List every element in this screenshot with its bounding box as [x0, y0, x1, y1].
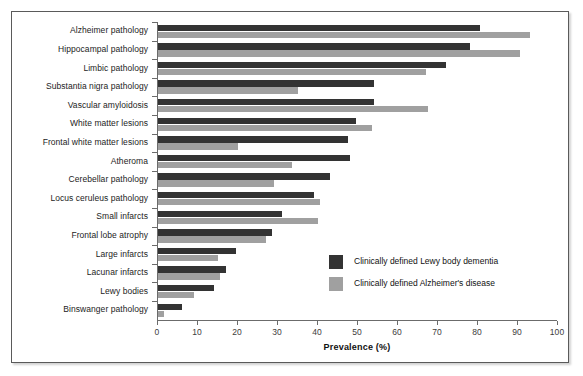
- x-tick-30: [277, 321, 278, 325]
- x-tick-40: [317, 321, 318, 325]
- y-tick-10: [152, 208, 157, 209]
- bar-lewy-body-dementia: [158, 43, 470, 49]
- category-label: Limbic pathology: [0, 63, 148, 73]
- bar-lewy-body-dementia: [158, 118, 356, 124]
- bar-alzheimers-disease: [158, 162, 292, 168]
- bar-alzheimers-disease: [158, 87, 298, 93]
- category-label: Cerebellar pathology: [0, 174, 148, 184]
- y-tick-11: [152, 227, 157, 228]
- bar-alzheimers-disease: [158, 32, 530, 38]
- bar-alzheimers-disease: [158, 311, 164, 317]
- bar-lewy-body-dementia: [158, 192, 314, 198]
- bar-alzheimers-disease: [158, 69, 426, 75]
- y-tick-0: [152, 22, 157, 23]
- y-tick-4: [152, 96, 157, 97]
- y-tick-15: [152, 301, 157, 302]
- x-tick-label-60: 60: [377, 327, 417, 337]
- bar-alzheimers-disease: [158, 180, 274, 186]
- category-label: Locus ceruleus pathology: [0, 193, 148, 203]
- category-label: Vascular amyloidosis: [0, 100, 148, 110]
- bar-alzheimers-disease: [158, 199, 320, 205]
- category-label: Frontal white matter lesions: [0, 137, 148, 147]
- bar-alzheimers-disease: [158, 255, 218, 261]
- y-tick-8: [152, 171, 157, 172]
- y-tick-3: [152, 78, 157, 79]
- bar-lewy-body-dementia: [158, 211, 282, 217]
- y-tick-7: [152, 152, 157, 153]
- legend-label-dark: Clinically defined Lewy body dementia: [354, 256, 498, 266]
- bar-lewy-body-dementia: [158, 62, 446, 68]
- y-tick-9: [152, 189, 157, 190]
- y-tick-5: [152, 115, 157, 116]
- bar-lewy-body-dementia: [158, 155, 350, 161]
- x-tick-label-50: 50: [337, 327, 377, 337]
- bar-alzheimers-disease: [158, 273, 220, 279]
- bar-lewy-body-dementia: [158, 136, 348, 142]
- category-label: Small infarcts: [0, 211, 148, 221]
- x-tick-label-20: 20: [217, 327, 257, 337]
- bar-alzheimers-disease: [158, 218, 318, 224]
- category-label: Hippocampal pathology: [0, 44, 148, 54]
- bar-alzheimers-disease: [158, 236, 266, 242]
- bar-lewy-body-dementia: [158, 25, 480, 31]
- bar-lewy-body-dementia: [158, 173, 330, 179]
- category-label: Atheroma: [0, 156, 148, 166]
- x-axis-title: Prevalence (%): [157, 342, 557, 352]
- x-tick-label-100: 100: [537, 327, 577, 337]
- figure-container: 0102030405060708090100 Alzheimer patholo…: [0, 0, 583, 376]
- y-tick-1: [152, 41, 157, 42]
- legend-swatch-icon-light: [329, 277, 343, 291]
- bar-lewy-body-dementia: [158, 229, 272, 235]
- x-tick-label-10: 10: [177, 327, 217, 337]
- bar-alzheimers-disease: [158, 125, 372, 131]
- bar-lewy-body-dementia: [158, 80, 374, 86]
- y-tick-6: [152, 134, 157, 135]
- x-tick-100: [557, 321, 558, 325]
- bar-lewy-body-dementia: [158, 266, 226, 272]
- bar-lewy-body-dementia: [158, 304, 182, 310]
- x-tick-label-40: 40: [297, 327, 337, 337]
- x-tick-80: [477, 321, 478, 325]
- bar-lewy-body-dementia: [158, 99, 374, 105]
- x-tick-label-90: 90: [497, 327, 537, 337]
- x-tick-90: [517, 321, 518, 325]
- category-label: Substantia nigra pathology: [0, 81, 148, 91]
- category-label: Alzheimer pathology: [0, 25, 148, 35]
- x-tick-10: [197, 321, 198, 325]
- category-label: Binswanger pathology: [0, 304, 148, 314]
- bar-alzheimers-disease: [158, 292, 194, 298]
- bar-lewy-body-dementia: [158, 285, 214, 291]
- x-tick-20: [237, 321, 238, 325]
- bar-alzheimers-disease: [158, 106, 428, 112]
- bar-alzheimers-disease: [158, 50, 520, 56]
- category-label: Large infarcts: [0, 249, 148, 259]
- y-tick-12: [152, 245, 157, 246]
- x-tick-label-30: 30: [257, 327, 297, 337]
- category-label: Frontal lobe atrophy: [0, 230, 148, 240]
- y-tick-13: [152, 264, 157, 265]
- x-tick-0: [157, 321, 158, 325]
- x-tick-50: [357, 321, 358, 325]
- x-tick-70: [437, 321, 438, 325]
- bar-lewy-body-dementia: [158, 248, 236, 254]
- category-label: White matter lesions: [0, 118, 148, 128]
- x-tick-60: [397, 321, 398, 325]
- legend-label-light: Clinically defined Alzheimer's disease: [354, 278, 495, 288]
- category-label: Lewy bodies: [0, 286, 148, 296]
- y-tick-14: [152, 282, 157, 283]
- legend-swatch-icon-dark: [329, 255, 343, 269]
- x-tick-label-0: 0: [137, 327, 177, 337]
- bar-alzheimers-disease: [158, 143, 238, 149]
- x-tick-label-70: 70: [417, 327, 457, 337]
- plot-area: 0102030405060708090100 Alzheimer patholo…: [0, 0, 583, 376]
- category-label: Lacunar infarcts: [0, 267, 148, 277]
- x-tick-label-80: 80: [457, 327, 497, 337]
- y-tick-2: [152, 59, 157, 60]
